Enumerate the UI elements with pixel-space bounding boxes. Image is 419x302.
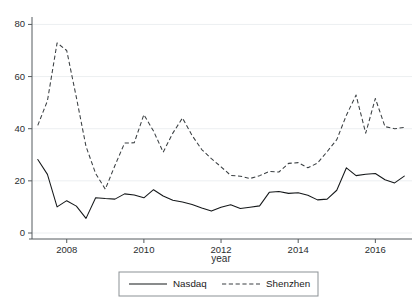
y-tick-label-0: 0	[20, 227, 25, 238]
x-tick-label-2008: 2008	[56, 244, 77, 255]
gridlines	[32, 24, 412, 233]
series-line-shenzhen	[38, 43, 404, 189]
y-tick-label-20: 20	[14, 175, 25, 186]
x-axis-title: year	[211, 253, 231, 264]
x-tick-label-2014: 2014	[288, 244, 309, 255]
y-axis-ticks: 020406080	[14, 18, 32, 238]
y-tick-label-80: 80	[14, 18, 25, 29]
y-tick-label-60: 60	[14, 71, 25, 82]
legend-label-shenzhen: Shenzhen	[266, 278, 310, 289]
series-line-nasdaq	[38, 159, 404, 218]
x-tick-label-2010: 2010	[133, 244, 154, 255]
x-tick-label-2016: 2016	[365, 244, 386, 255]
line-chart: 020406080 20082010201220142016 year Nasd…	[0, 0, 419, 302]
chart-container: 020406080 20082010201220142016 year Nasd…	[0, 0, 419, 302]
legend-label-nasdaq: Nasdaq	[173, 278, 207, 289]
data-series	[38, 43, 404, 218]
y-tick-label-40: 40	[14, 123, 25, 134]
axes	[29, 17, 412, 239]
chart-legend: NasdaqShenzhen	[119, 272, 318, 296]
